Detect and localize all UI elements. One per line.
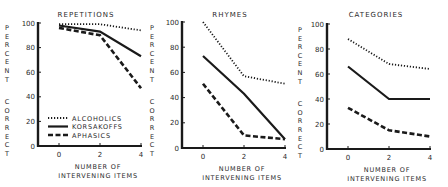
chart-legend: ALCOHOLICSKORSAKOFFSAPHASICS bbox=[48, 115, 123, 140]
x-tick-label: 2 bbox=[98, 151, 102, 159]
series-line-aphasics bbox=[59, 28, 141, 88]
y-axis-label-letter: C bbox=[5, 50, 10, 58]
y-axis-label-letter: N bbox=[5, 67, 10, 75]
y-axis-label-letter: R bbox=[5, 124, 10, 132]
y-axis-label-letter: C bbox=[150, 141, 155, 149]
y-axis-label-letter: R bbox=[150, 124, 155, 132]
y-axis-label-letter: R bbox=[150, 115, 155, 123]
series-line-korsakoffs bbox=[348, 67, 430, 100]
y-axis-label-letter: T bbox=[297, 152, 302, 160]
chart-title: RHYMES bbox=[212, 11, 247, 19]
series-line-aphasics bbox=[203, 84, 285, 140]
y-axis-label-letter: E bbox=[150, 58, 154, 66]
y-axis-label-letter: O bbox=[297, 109, 302, 117]
x-tick-label: 0 bbox=[201, 153, 205, 161]
legend-label: KORSAKOFFS bbox=[72, 123, 123, 131]
y-axis-label-letter: E bbox=[150, 133, 154, 141]
chart-title: REPETITIONS bbox=[58, 11, 115, 19]
y-tick-label: 80 bbox=[315, 46, 324, 54]
x-axis-label: INTERVENING ITEMS bbox=[347, 175, 427, 183]
y-axis-label: PERCENTCORRECT bbox=[297, 26, 303, 160]
y-axis-label-letter: N bbox=[150, 67, 155, 75]
y-axis-label-letter: C bbox=[150, 50, 155, 58]
y-axis-label-letter: N bbox=[298, 69, 303, 77]
x-axis-label: INTERVENING ITEMS bbox=[58, 172, 138, 180]
y-tick-label: 0 bbox=[320, 146, 324, 154]
y-axis-label-letter: T bbox=[149, 150, 154, 158]
y-tick-label: 80 bbox=[170, 44, 179, 52]
y-axis-label-letter: R bbox=[298, 126, 303, 134]
y-tick-label: 60 bbox=[315, 71, 324, 79]
y-tick-label: 80 bbox=[26, 44, 35, 52]
x-axis-label: NUMBER OF bbox=[219, 165, 265, 173]
y-axis-label-letter: P bbox=[298, 26, 302, 34]
y-axis-label-letter: R bbox=[5, 115, 10, 123]
y-tick-label: 20 bbox=[170, 119, 179, 127]
y-axis-label-letter: E bbox=[298, 60, 302, 68]
y-axis-label-letter: T bbox=[4, 76, 9, 84]
y-tick-label: 100 bbox=[166, 19, 179, 27]
chart-panel-categories: CATEGORIES020406080100024NUMBER OFINTERV… bbox=[297, 11, 433, 183]
y-axis-label-letter: C bbox=[298, 143, 303, 151]
chart-title: CATEGORIES bbox=[349, 11, 404, 19]
y-tick-label: 40 bbox=[170, 94, 179, 102]
y-tick-label: 40 bbox=[315, 96, 324, 104]
y-axis-label-letter: R bbox=[5, 41, 10, 49]
y-tick-label: 0 bbox=[175, 145, 179, 153]
y-tick-label: 0 bbox=[31, 143, 35, 151]
y-tick-label: 60 bbox=[26, 69, 35, 77]
x-axis-label: INTERVENING ITEMS bbox=[202, 174, 282, 182]
y-axis-label-letter: C bbox=[298, 52, 303, 60]
legend-label: ALCOHOLICS bbox=[72, 115, 122, 123]
x-tick-label: 2 bbox=[387, 154, 391, 162]
y-axis-label-letter: T bbox=[297, 78, 302, 86]
y-axis-label: PERCENTCORRECT bbox=[4, 24, 10, 158]
x-tick-label: 0 bbox=[346, 154, 350, 162]
y-tick-label: 100 bbox=[311, 21, 324, 29]
y-axis-label-letter: C bbox=[298, 100, 303, 108]
y-axis-label-letter: C bbox=[5, 98, 10, 106]
y-axis-label: PERCENTCORRECT bbox=[149, 24, 155, 158]
y-axis-label-letter: E bbox=[298, 135, 302, 143]
chart-panel-rhymes: RHYMES020406080100024NUMBER OFINTERVENIN… bbox=[149, 11, 288, 182]
series-line-alcoholics bbox=[203, 22, 285, 84]
y-axis-label-letter: R bbox=[298, 43, 303, 51]
y-axis-label-letter: E bbox=[298, 35, 302, 43]
y-tick-label: 20 bbox=[315, 121, 324, 129]
y-tick-label: 40 bbox=[26, 93, 35, 101]
x-axis-label: NUMBER OF bbox=[75, 163, 121, 171]
chart-panel-repetitions: REPETITIONS020406080100024NUMBER OFINTER… bbox=[4, 11, 144, 180]
y-axis-label-letter: R bbox=[150, 41, 155, 49]
y-axis-label-letter: E bbox=[5, 33, 9, 41]
y-axis-label-letter: E bbox=[5, 58, 9, 66]
y-axis-label-letter: C bbox=[5, 141, 10, 149]
y-axis-label-letter: O bbox=[4, 107, 9, 115]
y-axis-label-letter: O bbox=[149, 107, 154, 115]
x-tick-label: 4 bbox=[283, 153, 288, 161]
chart-figure: REPETITIONS020406080100024NUMBER OFINTER… bbox=[0, 0, 448, 187]
y-tick-label: 100 bbox=[22, 20, 35, 28]
y-axis-label-letter: P bbox=[150, 24, 154, 32]
legend-label: APHASICS bbox=[72, 132, 111, 140]
series-line-alcoholics bbox=[348, 39, 430, 69]
x-tick-label: 2 bbox=[242, 153, 246, 161]
x-tick-label: 4 bbox=[428, 154, 433, 162]
y-axis-label-letter: T bbox=[149, 76, 154, 84]
y-axis-label-letter: E bbox=[150, 33, 154, 41]
y-axis-label-letter: C bbox=[150, 98, 155, 106]
x-axis-label: NUMBER OF bbox=[364, 166, 410, 174]
y-tick-label: 20 bbox=[26, 118, 35, 126]
y-axis-label-letter: P bbox=[5, 24, 9, 32]
y-axis-label-letter: R bbox=[298, 117, 303, 125]
x-tick-label: 0 bbox=[57, 151, 61, 159]
series-line-aphasics bbox=[348, 108, 430, 137]
y-axis-label-letter: T bbox=[4, 150, 9, 158]
y-tick-label: 60 bbox=[170, 69, 179, 77]
x-tick-label: 4 bbox=[139, 151, 144, 159]
y-axis-label-letter: E bbox=[5, 133, 9, 141]
